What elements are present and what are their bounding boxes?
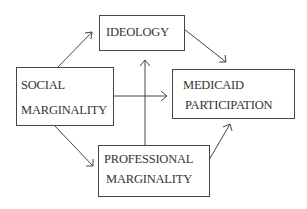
node-medicaid-line1: MEDICAID bbox=[183, 79, 244, 92]
node-professional-line2: MARGINALITY bbox=[106, 173, 192, 186]
arrow-professional-to-medicaid bbox=[209, 124, 232, 160]
node-social-line1: SOCIAL bbox=[21, 79, 65, 92]
node-social-marginality: SOCIAL MARGINALITY bbox=[16, 67, 114, 126]
path-diagram: IDEOLOGY SOCIAL MARGINALITY MEDICAID PAR… bbox=[0, 0, 307, 209]
node-ideology: IDEOLOGY bbox=[99, 15, 185, 51]
arrow-professional-to-ideology bbox=[140, 60, 150, 145]
node-ideology-label: IDEOLOGY bbox=[106, 26, 169, 39]
node-professional-marginality: PROFESSIONAL MARGINALITY bbox=[98, 145, 210, 197]
node-professional-line1: PROFESSIONAL bbox=[104, 153, 193, 166]
arrow-social-to-medicaid bbox=[113, 91, 167, 101]
arrow-ideology-to-medicaid bbox=[184, 29, 226, 62]
node-social-line2: MARGINALITY bbox=[21, 104, 107, 117]
node-medicaid-participation: MEDICAID PARTICIPATION bbox=[172, 69, 295, 119]
arrow-social-to-professional bbox=[54, 125, 93, 166]
arrow-social-to-ideology bbox=[58, 32, 92, 67]
node-medicaid-line2: PARTICIPATION bbox=[185, 99, 272, 112]
